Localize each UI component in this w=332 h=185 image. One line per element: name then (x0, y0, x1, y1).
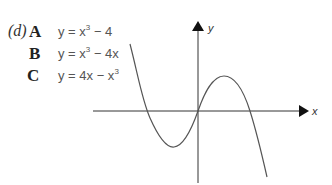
cubic-graph: x y (0, 0, 332, 185)
y-axis-label: y (207, 22, 215, 34)
x-axis-arrow-icon (299, 105, 309, 117)
x-axis-label: x (311, 105, 318, 117)
y-axis-arrow-icon (192, 21, 204, 31)
